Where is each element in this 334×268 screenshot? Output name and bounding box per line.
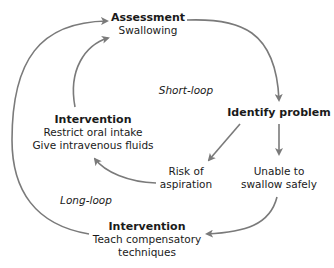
arrow-identify-to-risk (209, 124, 240, 160)
node-unable-line-1: Unable to (241, 165, 317, 178)
arrow-intervention-short-to-assessment (73, 38, 108, 107)
node-risk-line-1: Risk of (160, 165, 212, 178)
node-intervention-short-title: Intervention (32, 113, 153, 126)
node-intervention-short: Intervention Restrict oral intake Give i… (32, 113, 153, 152)
node-risk-of-aspiration: Risk of aspiration (160, 165, 212, 191)
node-intervention-long: Intervention Teach compensatory techniqu… (93, 220, 201, 259)
arrow-unable-to-intervention-long (207, 197, 277, 234)
short-loop-label: Short-loop (159, 84, 213, 96)
node-intervention-long-line-2: techniques (93, 246, 201, 259)
node-assessment-line: Swallowing (111, 24, 185, 37)
node-identify-problem: Identify problem (227, 106, 331, 119)
node-assessment: Assessment Swallowing (111, 11, 185, 37)
node-risk-line-2: aspiration (160, 178, 212, 191)
node-intervention-short-line-2: Give intravenous fluids (32, 139, 153, 152)
node-intervention-short-line-1: Restrict oral intake (32, 126, 153, 139)
node-unable-to-swallow: Unable to swallow safely (241, 165, 317, 191)
swallowing-assessment-cycle-diagram: Assessment Swallowing Short-loop Identif… (0, 0, 334, 268)
long-loop-label: Long-loop (60, 194, 112, 206)
node-intervention-long-line-1: Teach compensatory (93, 233, 201, 246)
node-assessment-title: Assessment (111, 11, 185, 24)
node-intervention-long-title: Intervention (93, 220, 201, 233)
arrow-risk-to-intervention-short (95, 159, 156, 183)
node-unable-line-2: swallow safely (241, 178, 317, 191)
node-identify-title: Identify problem (227, 106, 331, 119)
